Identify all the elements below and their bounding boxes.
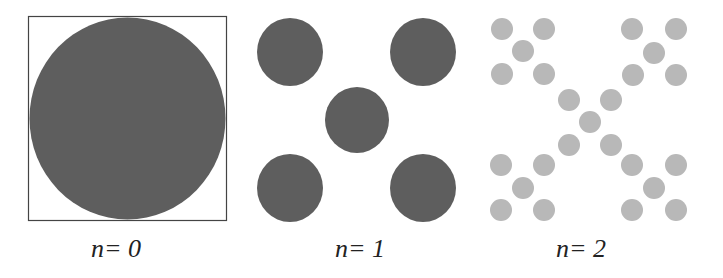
fractal-circle	[621, 199, 643, 221]
fractal-circle	[533, 63, 555, 85]
label-iteration-1: n= 1	[335, 234, 385, 264]
fractal-circle	[491, 63, 513, 85]
fractal-circle	[558, 89, 580, 111]
fractal-circle	[257, 18, 323, 86]
panel-iteration-1	[257, 18, 456, 222]
label-iteration-2: n= 2	[556, 234, 606, 264]
fractal-circle	[665, 64, 687, 86]
fractal-circle	[600, 89, 622, 111]
fractal-circle	[665, 154, 687, 176]
fractal-circle	[643, 42, 665, 64]
fractal-circle	[257, 154, 323, 222]
fractal-circle	[390, 154, 456, 222]
fractal-circle	[665, 18, 687, 40]
fractal-circle	[491, 18, 513, 40]
fractal-circle	[390, 18, 456, 86]
fractal-circle	[490, 199, 512, 221]
panel-iteration-0	[29, 17, 227, 221]
fractal-circle	[30, 18, 226, 220]
fractal-circle	[579, 111, 601, 133]
panel-iteration-2	[490, 18, 687, 221]
fractal-circle	[558, 134, 580, 156]
label-iteration-0: n= 0	[91, 234, 141, 264]
fractal-circle	[512, 177, 534, 199]
fractal-circle	[490, 154, 512, 176]
fractal-circle	[622, 64, 644, 86]
fractal-circle	[665, 199, 687, 221]
fractal-circle	[600, 134, 622, 156]
fractal-circle	[621, 154, 643, 176]
fractal-circle	[533, 18, 555, 40]
fractal-circle	[325, 87, 389, 153]
fractal-circle	[533, 199, 555, 221]
fractal-circle	[512, 40, 534, 62]
fractal-circle	[533, 154, 555, 176]
fractal-circle	[621, 18, 643, 40]
fractal-circle	[643, 177, 665, 199]
